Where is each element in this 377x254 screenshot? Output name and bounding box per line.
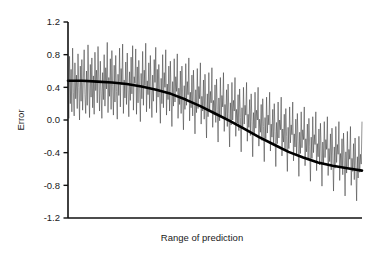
chart-labels: 1.20.80.40.0-0.4-0.8-1.2ErrorRange of pr… bbox=[15, 16, 243, 243]
y-tick-label: 1.2 bbox=[47, 16, 60, 27]
y-tick-label: 0.0 bbox=[47, 114, 60, 125]
x-axis-title: Range of prediction bbox=[161, 232, 243, 243]
residual-noise-series bbox=[68, 42, 362, 200]
y-tick-label: -1.2 bbox=[44, 212, 60, 223]
y-axis-title: Error bbox=[15, 109, 26, 130]
y-tick-label: 0.8 bbox=[47, 49, 60, 60]
y-tick-label: 0.4 bbox=[47, 82, 60, 93]
y-tick-label: -0.4 bbox=[44, 147, 60, 158]
chart-svg: 1.20.80.40.0-0.4-0.8-1.2ErrorRange of pr… bbox=[0, 0, 377, 254]
y-tick-label: -0.8 bbox=[44, 180, 60, 191]
chart-figure: 1.20.80.40.0-0.4-0.8-1.2ErrorRange of pr… bbox=[0, 0, 377, 254]
